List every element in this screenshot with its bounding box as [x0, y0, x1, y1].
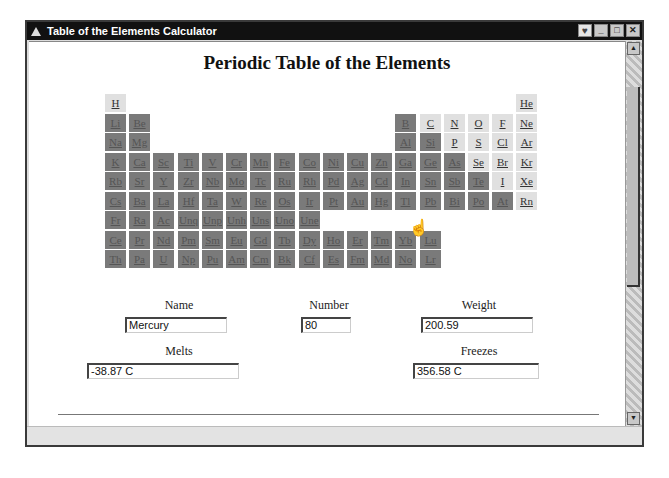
element-cell-cm[interactable]: Cm: [250, 250, 271, 268]
element-cell-se[interactable]: Se: [468, 153, 489, 171]
element-cell-ni[interactable]: Ni: [323, 153, 344, 171]
element-cell-o[interactable]: O: [468, 114, 489, 132]
element-cell-cu[interactable]: Cu: [347, 153, 368, 171]
element-cell-np[interactable]: Np: [178, 250, 199, 268]
element-cell-p[interactable]: P: [444, 133, 465, 151]
scroll-up-button[interactable]: ▲: [627, 42, 640, 55]
element-cell-lr[interactable]: Lr: [420, 250, 441, 268]
element-cell-ce[interactable]: Ce: [105, 231, 126, 249]
element-cell-k[interactable]: K: [105, 153, 126, 171]
element-cell-in[interactable]: In: [395, 172, 416, 190]
element-cell-cf[interactable]: Cf: [299, 250, 320, 268]
element-cell-dy[interactable]: Dy: [299, 231, 320, 249]
element-cell-te[interactable]: Te: [468, 172, 489, 190]
element-cell-tl[interactable]: Tl: [395, 192, 416, 210]
element-cell-unp[interactable]: Unp: [202, 211, 223, 229]
element-cell-xe[interactable]: Xe: [516, 172, 537, 190]
element-cell-f[interactable]: F: [492, 114, 513, 132]
element-cell-kr[interactable]: Kr: [516, 153, 537, 171]
scroll-down-button[interactable]: ▼: [627, 412, 640, 425]
vertical-scrollbar[interactable]: ▲ ▼: [625, 41, 642, 426]
element-cell-rb[interactable]: Rb: [105, 172, 126, 190]
heart-icon[interactable]: ♥: [578, 24, 592, 37]
element-cell-ca[interactable]: Ca: [129, 153, 150, 171]
element-cell-ar[interactable]: Ar: [516, 133, 537, 151]
element-cell-pt[interactable]: Pt: [323, 192, 344, 210]
element-cell-si[interactable]: Si: [420, 133, 441, 151]
element-cell-i[interactable]: I: [492, 172, 513, 190]
element-cell-li[interactable]: Li: [105, 114, 126, 132]
element-cell-tm[interactable]: Tm: [371, 231, 392, 249]
element-cell-ag[interactable]: Ag: [347, 172, 368, 190]
element-cell-cl[interactable]: Cl: [492, 133, 513, 151]
element-cell-er[interactable]: Er: [347, 231, 368, 249]
element-cell-re[interactable]: Re: [250, 192, 271, 210]
element-cell-y[interactable]: Y: [153, 172, 174, 190]
element-cell-sm[interactable]: Sm: [202, 231, 223, 249]
element-cell-unq[interactable]: Unq: [178, 211, 199, 229]
element-cell-no[interactable]: No: [395, 250, 416, 268]
name-field[interactable]: Mercury: [125, 317, 227, 333]
element-cell-n[interactable]: N: [444, 114, 465, 132]
element-cell-bk[interactable]: Bk: [274, 250, 295, 268]
element-cell-pr[interactable]: Pr: [129, 231, 150, 249]
element-cell-zr[interactable]: Zr: [178, 172, 199, 190]
element-cell-hf[interactable]: Hf: [178, 192, 199, 210]
element-cell-w[interactable]: W: [226, 192, 247, 210]
element-cell-s[interactable]: S: [468, 133, 489, 151]
element-cell-ra[interactable]: Ra: [129, 211, 150, 229]
number-field[interactable]: 80: [301, 317, 351, 333]
element-cell-po[interactable]: Po: [468, 192, 489, 210]
freezes-field[interactable]: 356.58 C: [413, 363, 539, 379]
element-cell-tb[interactable]: Tb: [274, 231, 295, 249]
element-cell-ne[interactable]: Ne: [516, 114, 537, 132]
element-cell-ge[interactable]: Ge: [420, 153, 441, 171]
element-cell-tc[interactable]: Tc: [250, 172, 271, 190]
element-cell-unh[interactable]: Unh: [226, 211, 247, 229]
element-cell-cs[interactable]: Cs: [105, 192, 126, 210]
element-cell-mo[interactable]: Mo: [226, 172, 247, 190]
element-cell-la[interactable]: La: [153, 192, 174, 210]
element-cell-pm[interactable]: Pm: [178, 231, 199, 249]
element-cell-au[interactable]: Au: [347, 192, 368, 210]
element-cell-une[interactable]: Une: [299, 211, 320, 229]
element-cell-bi[interactable]: Bi: [444, 192, 465, 210]
scroll-thumb[interactable]: [627, 87, 640, 287]
element-cell-rn[interactable]: Rn: [516, 192, 537, 210]
element-cell-es[interactable]: Es: [323, 250, 344, 268]
element-cell-sn[interactable]: Sn: [420, 172, 441, 190]
element-cell-sb[interactable]: Sb: [444, 172, 465, 190]
element-cell-uno[interactable]: Uno: [274, 211, 295, 229]
weight-field[interactable]: 200.59: [421, 317, 533, 333]
element-cell-pu[interactable]: Pu: [202, 250, 223, 268]
element-cell-zn[interactable]: Zn: [371, 153, 392, 171]
element-cell-ba[interactable]: Ba: [129, 192, 150, 210]
element-cell-fr[interactable]: Fr: [105, 211, 126, 229]
element-cell-th[interactable]: Th: [105, 250, 126, 268]
minimize-button[interactable]: _: [594, 24, 608, 37]
close-button[interactable]: ✕: [626, 24, 640, 37]
maximize-button[interactable]: □: [610, 24, 624, 37]
element-cell-pd[interactable]: Pd: [323, 172, 344, 190]
element-cell-sr[interactable]: Sr: [129, 172, 150, 190]
element-cell-sc[interactable]: Sc: [153, 153, 174, 171]
element-cell-na[interactable]: Na: [105, 133, 126, 151]
element-cell-u[interactable]: U: [153, 250, 174, 268]
element-cell-cr[interactable]: Cr: [226, 153, 247, 171]
title-bar[interactable]: Table of the Elements Calculator ♥ _ □ ✕: [27, 22, 642, 40]
element-cell-ac[interactable]: Ac: [153, 211, 174, 229]
element-cell-nb[interactable]: Nb: [202, 172, 223, 190]
element-cell-am[interactable]: Am: [226, 250, 247, 268]
element-cell-c[interactable]: C: [420, 114, 441, 132]
element-cell-nd[interactable]: Nd: [153, 231, 174, 249]
element-cell-pa[interactable]: Pa: [129, 250, 150, 268]
element-cell-h[interactable]: H: [105, 94, 126, 112]
element-cell-b[interactable]: B: [395, 114, 416, 132]
element-cell-ho[interactable]: Ho: [323, 231, 344, 249]
melts-field[interactable]: -38.87 C: [87, 363, 239, 379]
element-cell-ru[interactable]: Ru: [274, 172, 295, 190]
element-cell-hg[interactable]: Hg: [371, 192, 392, 210]
element-cell-fm[interactable]: Fm: [347, 250, 368, 268]
element-cell-ga[interactable]: Ga: [395, 153, 416, 171]
element-cell-be[interactable]: Be: [129, 114, 150, 132]
